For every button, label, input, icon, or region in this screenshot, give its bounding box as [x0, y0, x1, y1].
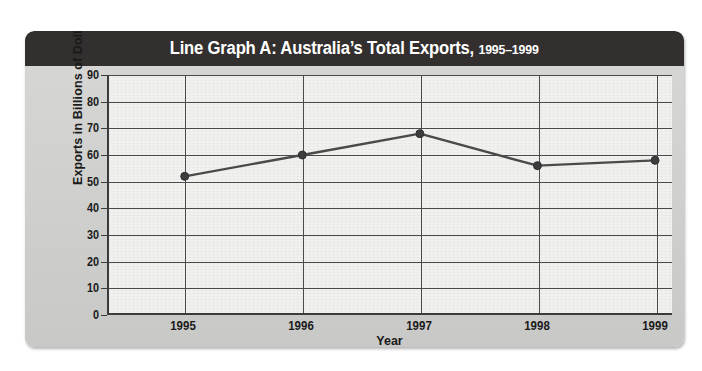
y-axis-label-60: 60 [76, 148, 99, 162]
x-axis-label-1996: 1996 [273, 319, 328, 333]
y-axis-label-90: 90 [76, 68, 99, 82]
y-axis-tick-40 [101, 208, 107, 209]
x-axis-label-1998: 1998 [509, 319, 564, 333]
y-axis-label-40: 40 [76, 201, 99, 215]
y-axis-tick-60 [101, 155, 107, 156]
chart-title-main: Line Graph A: Australia’s Total Exports, [170, 38, 474, 58]
y-axis-tick-90 [101, 75, 107, 76]
y-axis-tick-50 [101, 182, 107, 183]
data-point-1998 [533, 162, 541, 170]
x-axis-labels: 19951996199719981999 [107, 319, 672, 335]
data-point-1995 [181, 172, 189, 180]
data-point-1999 [651, 156, 659, 164]
y-axis-label-0: 0 [76, 308, 99, 322]
y-axis-label-80: 80 [76, 95, 99, 109]
plot-area [107, 75, 672, 315]
y-axis-tick-80 [101, 102, 107, 103]
chart-title: Line Graph A: Australia’s Total Exports,… [170, 38, 539, 59]
y-axis-label-30: 30 [76, 228, 99, 242]
y-axis-label-70: 70 [76, 121, 99, 135]
y-axis-label-20: 20 [76, 255, 99, 269]
chart-card: Line Graph A: Australia’s Total Exports,… [25, 31, 684, 347]
y-axis-tick-0 [101, 315, 107, 316]
data-point-1997 [416, 130, 424, 138]
y-axis-tick-30 [101, 235, 107, 236]
y-axis-labels: 0102030405060708090 [69, 75, 99, 315]
y-axis-tick-70 [101, 128, 107, 129]
y-axis-label-50: 50 [76, 175, 99, 189]
data-series-exports [109, 75, 672, 315]
data-point-1996 [298, 151, 306, 159]
x-axis-label-1997: 1997 [391, 319, 446, 333]
chart-title-range: 1995–1999 [479, 42, 539, 57]
x-axis-label-1999: 1999 [627, 319, 682, 333]
y-axis-tick-10 [101, 288, 107, 289]
y-axis-label-10: 10 [76, 281, 99, 295]
x-axis-label-1995: 1995 [155, 319, 210, 333]
data-line [185, 134, 655, 177]
y-axis-tick-20 [101, 262, 107, 263]
chart-title-bar: Line Graph A: Australia’s Total Exports,… [25, 31, 684, 66]
x-axis-title: Year [107, 334, 672, 347]
